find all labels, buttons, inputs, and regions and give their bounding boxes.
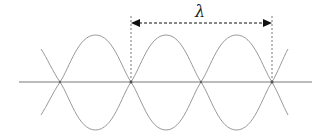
node-dot — [271, 81, 274, 84]
node-dot — [200, 81, 202, 83]
node-dot — [130, 81, 133, 84]
standing-wave-diagram — [0, 0, 321, 134]
wavelength-label: λ — [195, 2, 205, 21]
arrowhead-left-icon — [131, 19, 140, 27]
node-dot — [59, 81, 61, 83]
arrowhead-right-icon — [263, 19, 272, 27]
